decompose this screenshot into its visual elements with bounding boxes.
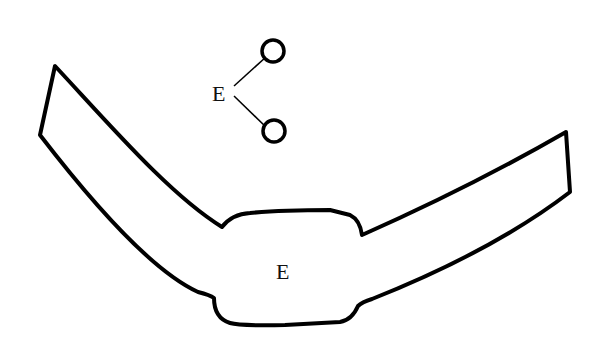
boomerang-outline: [40, 66, 570, 325]
center-label: E: [276, 259, 289, 284]
diagram-canvas: E E: [0, 0, 607, 355]
legend-circle-lower: [263, 120, 285, 142]
legend-group: E: [212, 40, 285, 142]
legend-label: E: [212, 81, 225, 106]
legend-circle-upper: [262, 40, 284, 62]
legend-line-lower: [234, 96, 268, 129]
legend-line-upper: [234, 57, 266, 86]
